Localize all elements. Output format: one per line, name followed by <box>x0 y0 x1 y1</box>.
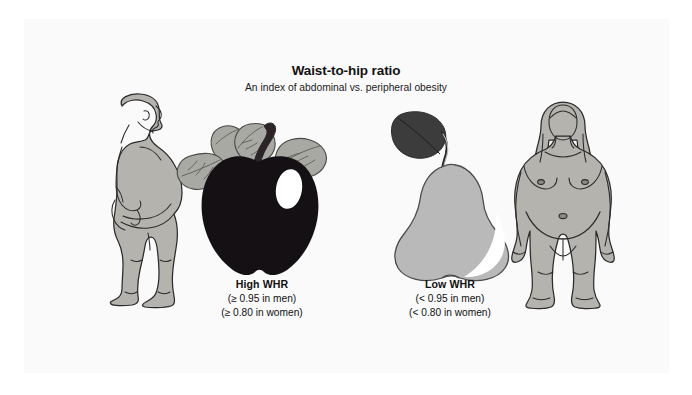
caption-low-whr: Low WHR (< 0.95 in men) (< 0.80 in women… <box>340 277 560 321</box>
caption-low-men: (< 0.95 in men) <box>340 292 560 307</box>
caption-low-women: (< 0.80 in women) <box>340 306 560 321</box>
figure-canvas: Waist-to-hip ratio An index of abdominal… <box>0 0 692 395</box>
apple-illustration <box>172 118 344 286</box>
caption-high-whr: High WHR (≥ 0.95 in men) (≥ 0.80 in wome… <box>152 277 372 321</box>
caption-low-title: Low WHR <box>340 277 560 292</box>
caption-high-men: (≥ 0.95 in men) <box>152 292 372 307</box>
caption-high-title: High WHR <box>152 277 372 292</box>
apple-body <box>202 156 319 275</box>
caption-high-women: (≥ 0.80 in women) <box>152 306 372 321</box>
